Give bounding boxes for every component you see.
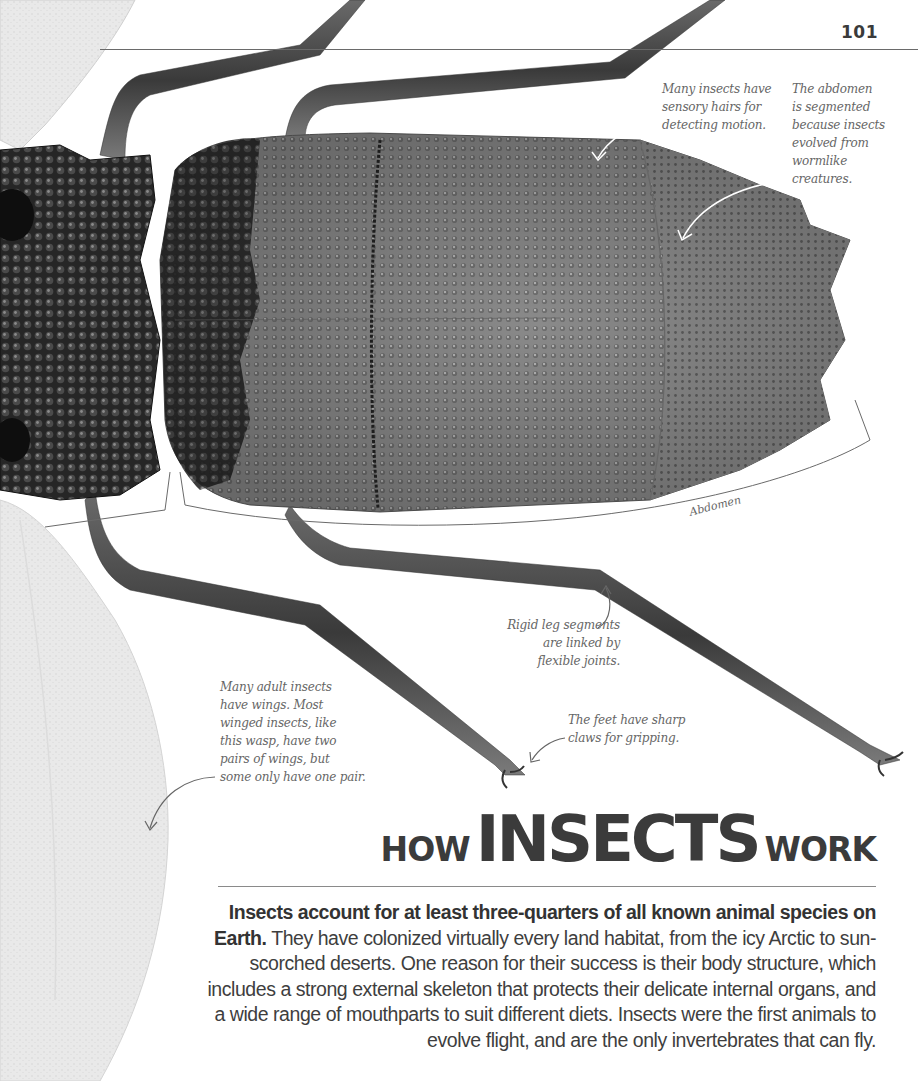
page-title: HOW INSECTS WORK (381, 802, 876, 876)
intro-body: They have colonized virtually every land… (207, 927, 876, 1051)
callout-wings: Many adult insects have wings. Most wing… (220, 678, 380, 786)
callout-feet: The feet have sharp claws for gripping. (568, 711, 708, 747)
title-prefix: HOW (381, 830, 470, 869)
title-main: INSECTS (476, 802, 759, 876)
feet-arrow (532, 738, 565, 760)
page-number: 101 (841, 22, 878, 42)
book-page: 101 Many insects have sensory hairs for … (0, 0, 918, 1081)
intro-paragraph: Insects account for at least three-quart… (196, 900, 876, 1053)
callout-leg-segments: Rigid leg segments are linked by flexibl… (470, 616, 620, 670)
header-rule (100, 49, 918, 50)
callout-abdomen-segmented: The abdomen is segmented because insects… (792, 80, 902, 188)
title-suffix: WORK (765, 830, 876, 869)
title-rule (218, 886, 876, 887)
callout-sensory-hairs: Many insects have sensory hairs for dete… (662, 80, 782, 134)
